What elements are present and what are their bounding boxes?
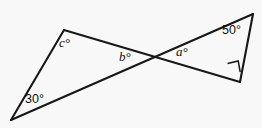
angle-label-c: c° bbox=[59, 36, 70, 49]
angle-label-b: b° bbox=[119, 50, 131, 63]
angle-label-50: 50° bbox=[222, 24, 241, 37]
segment-top-left-to-bottom-right bbox=[64, 30, 240, 82]
angle-label-a: a° bbox=[176, 45, 188, 58]
segment-left-triangle-closing-side bbox=[11, 30, 64, 120]
segment-left-vertex-to-top-right bbox=[11, 14, 253, 120]
geometry-figure: c° b° a° 30° 50° bbox=[0, 0, 262, 128]
figure-canvas bbox=[0, 0, 262, 128]
right-angle-icon bbox=[228, 61, 241, 72]
segment-right-triangle-vertical-side bbox=[240, 14, 253, 82]
angle-label-30: 30° bbox=[25, 93, 44, 106]
